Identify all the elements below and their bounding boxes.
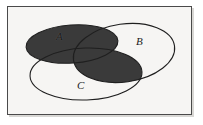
venn-diagram-figure: A B C xyxy=(0,0,203,125)
set-label-a: A xyxy=(56,31,63,42)
venn-svg xyxy=(0,0,203,125)
set-label-b: B xyxy=(136,36,143,47)
set-label-c: C xyxy=(77,80,84,91)
venn-canvas xyxy=(0,0,203,125)
